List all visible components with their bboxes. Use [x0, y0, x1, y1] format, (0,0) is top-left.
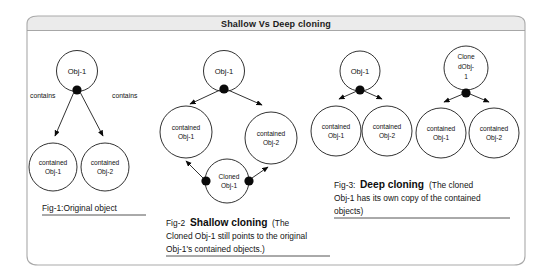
- fig3-original-child-right-node: [362, 106, 412, 156]
- fig1-child-left-label-2: Obj-1: [45, 168, 61, 176]
- fig1-caption: Fig-1:Original object: [42, 203, 118, 213]
- fig3-original-child-left-node: [311, 106, 361, 156]
- figure-2: Obj-1 contained Obj-1 contained Obj-2 Cl…: [160, 51, 330, 257]
- fig2-clone-node: [205, 159, 249, 203]
- fig2-contained-right-label-2: Obj-2: [263, 139, 279, 147]
- fig2-root-label: Obj-1: [215, 67, 234, 76]
- diagram-root: Shallow Vs Deep cloning Obj-1 contains c…: [0, 0, 548, 278]
- page-title: Shallow Vs Deep cloning: [221, 19, 331, 29]
- fig3-clone-child-left-label-1: contained: [427, 125, 456, 132]
- fig1-child-left-label-1: contained: [39, 159, 68, 166]
- fig3-caption-line3: objects): [334, 206, 364, 216]
- fig3-original-child-right-label-2: Obj-2: [379, 132, 395, 140]
- fig3-original-edge-left: [339, 91, 357, 99]
- fig3-original-child-left-label-2: Obj-1: [328, 132, 344, 140]
- fig1-child-left-node: [29, 143, 77, 191]
- fig3-clone-child-left-label-2: Obj-1: [433, 134, 449, 142]
- fig2-caption-line2: Cloned Obj-1 still points to the origina…: [166, 231, 307, 241]
- fig3-clone-edge-right: [470, 94, 489, 102]
- fig2-edge-clone-left: [186, 161, 203, 178]
- fig2-clone-label-2: Obj-1: [221, 182, 237, 190]
- fig2-edge-root-right: [228, 90, 262, 105]
- diagram-canvas: Shallow Vs Deep cloning Obj-1 contains c…: [0, 0, 548, 278]
- fig2-contained-right-node: [245, 112, 297, 164]
- fig3-caption-bold: Deep cloning: [360, 179, 424, 190]
- fig3-caption-line2: Obj-1 has its own copy of the contained: [334, 193, 481, 203]
- fig3-caption-rest: (The cloned: [429, 180, 474, 190]
- fig3-original-child-right-label-1: contained: [373, 123, 402, 130]
- fig3-clone-child-right-node: [469, 108, 519, 158]
- fig2-contained-left-label-2: Obj-1: [178, 133, 194, 141]
- fig2-root-anchor-dot: [219, 84, 228, 93]
- fig3-clone-root-label-3: 1: [464, 73, 468, 80]
- fig3-clone-root-anchor-dot: [461, 88, 470, 97]
- fig2-edge-clone-right: [252, 167, 268, 178]
- fig3-original-edge-right: [364, 91, 382, 99]
- fig1-child-right-label-2: Obj-2: [97, 168, 113, 176]
- fig1-edge-label-left: contains: [30, 92, 56, 99]
- fig2-edge-root-left: [190, 90, 220, 104]
- fig2-contained-left-node: [160, 106, 212, 158]
- fig3-clone-child-left-node: [416, 108, 466, 158]
- figure-1: Obj-1 contains contains contained Obj-1 …: [29, 51, 146, 216]
- fig3-clone-child-right-label-1: contained: [480, 125, 509, 132]
- fig3-clone-child-right-label-2: Obj-2: [486, 134, 502, 142]
- fig3-original-root-anchor-dot: [355, 85, 364, 94]
- fig2-contained-right-label-1: contained: [257, 130, 286, 137]
- fig1-child-right-label-1: contained: [91, 159, 120, 166]
- fig1-root-label: Obj-1: [68, 67, 87, 76]
- fig1-child-right-node: [81, 143, 129, 191]
- fig3-caption-prefix: Fig-3:: [334, 180, 355, 190]
- fig2-contained-left-label-1: contained: [172, 124, 201, 131]
- fig2-caption-bold: Shallow cloning: [190, 217, 268, 228]
- fig2-caption-rest: (The: [272, 218, 290, 228]
- fig3-original-child-left-label-1: contained: [322, 123, 351, 130]
- fig3-clone-root-label-2: dObj-: [458, 63, 474, 71]
- fig2-caption-prefix: Fig-2: [166, 218, 185, 228]
- fig1-edge-left: [55, 92, 74, 136]
- fig2-caption-line3: Obj-1's contained objects.): [166, 244, 265, 254]
- figure-3: Obj-1 contained Obj-1 contained Obj-2 Cl…: [311, 46, 519, 218]
- fig3-clone-root-label-1: Clone: [457, 53, 475, 60]
- fig1-edge-label-right: contains: [112, 92, 138, 99]
- fig3-original-root-label: Obj-1: [351, 67, 370, 76]
- fig2-clone-label-1: Cloned: [219, 173, 240, 180]
- fig3-clone-edge-left: [444, 94, 463, 102]
- fig1-edge-right: [80, 92, 103, 136]
